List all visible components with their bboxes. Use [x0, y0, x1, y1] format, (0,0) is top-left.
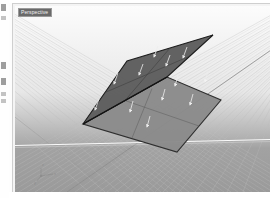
viewport-frame: x y z Perspective: [13, 4, 273, 195]
window-bottom-margin: [0, 192, 275, 198]
tool-icon-5[interactable]: [1, 92, 6, 96]
viewport-canvas[interactable]: x y z: [15, 6, 271, 193]
viewport-title-label[interactable]: Perspective: [18, 8, 52, 17]
axis-gizmo-label-y: y: [34, 180, 36, 185]
window-right-margin: [270, 0, 275, 198]
tool-icon-6[interactable]: [1, 99, 6, 103]
tool-icon-4[interactable]: [1, 78, 6, 85]
perspective-viewport[interactable]: x y z: [15, 6, 271, 193]
tool-icon-2[interactable]: [1, 16, 6, 20]
window-top-margin: [0, 0, 275, 3]
tool-icon-1[interactable]: [1, 4, 6, 11]
axis-gizmo-label-x: x: [54, 171, 56, 176]
cad-application-window: x y z Perspective: [0, 0, 275, 198]
clipped-side-toolbar[interactable]: [0, 0, 9, 198]
axis-gizmo-label-z: z: [42, 162, 44, 167]
tool-icon-3[interactable]: [1, 62, 6, 69]
